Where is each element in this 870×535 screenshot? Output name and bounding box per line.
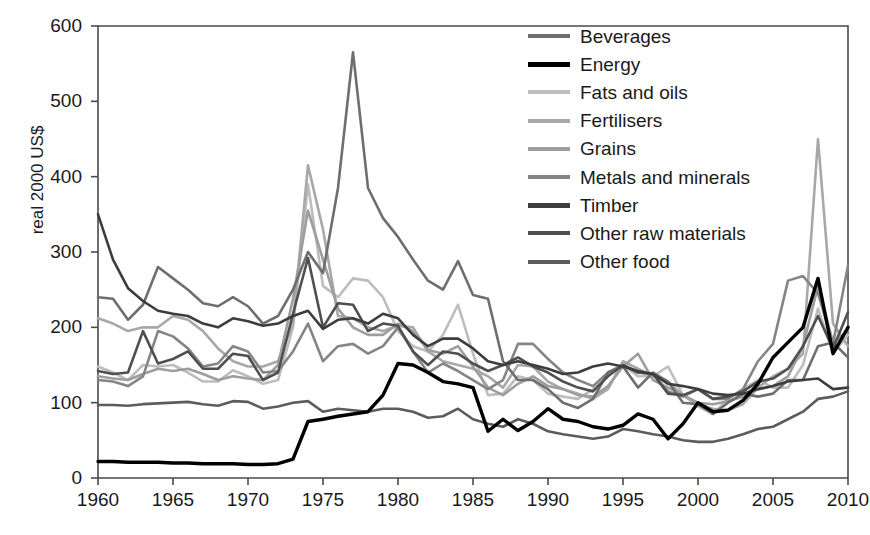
legend-swatch-icon xyxy=(528,90,570,94)
legend-label: Metals and minerals xyxy=(580,168,750,187)
legend-label: Energy xyxy=(580,55,640,74)
x-tick-label: 1960 xyxy=(68,489,128,511)
chart-legend: BeveragesEnergyFats and oilsFertilisersG… xyxy=(528,22,750,276)
legend-swatch-icon xyxy=(528,203,570,208)
legend-swatch-icon xyxy=(528,231,570,235)
y-tick-label: 400 xyxy=(18,166,82,188)
y-tick-label: 500 xyxy=(18,90,82,112)
legend-swatch-icon xyxy=(528,62,570,67)
legend-item[interactable]: Other food xyxy=(528,248,750,276)
y-tick-label: 200 xyxy=(18,316,82,338)
x-tick-label: 1970 xyxy=(218,489,278,511)
x-tick-label: 2000 xyxy=(668,489,728,511)
legend-label: Fats and oils xyxy=(580,83,688,102)
x-tick-label: 2010 xyxy=(818,489,870,511)
y-tick-label: 300 xyxy=(18,241,82,263)
y-tick-label: 600 xyxy=(18,15,82,37)
legend-swatch-icon xyxy=(528,260,570,264)
y-tick-label: 0 xyxy=(18,467,82,489)
series-line-metals-and-minerals xyxy=(98,266,848,399)
legend-swatch-icon xyxy=(528,34,570,38)
x-tick-label: 1995 xyxy=(593,489,653,511)
legend-label: Beverages xyxy=(580,27,671,46)
legend-swatch-icon xyxy=(528,119,570,123)
legend-label: Grains xyxy=(580,139,636,158)
legend-label: Timber xyxy=(580,196,638,215)
legend-item[interactable]: Fertilisers xyxy=(528,107,750,135)
legend-label: Other food xyxy=(580,252,670,271)
legend-label: Other raw materials xyxy=(580,224,746,243)
x-tick-label: 2005 xyxy=(743,489,803,511)
legend-label: Fertilisers xyxy=(580,111,662,130)
legend-item[interactable]: Metals and minerals xyxy=(528,163,750,191)
y-tick-label: 100 xyxy=(18,392,82,414)
legend-item[interactable]: Fats and oils xyxy=(528,78,750,106)
price-index-line-chart: real 2000 US$ 19601965197019751980198519… xyxy=(0,0,870,535)
x-tick-label: 1980 xyxy=(368,489,428,511)
x-tick-label: 1990 xyxy=(518,489,578,511)
legend-item[interactable]: Grains xyxy=(528,135,750,163)
x-tick-label: 1985 xyxy=(443,489,503,511)
legend-swatch-icon xyxy=(528,175,570,179)
x-tick-label: 1965 xyxy=(143,489,203,511)
x-tick-label: 1975 xyxy=(293,489,353,511)
legend-item[interactable]: Timber xyxy=(528,191,750,219)
legend-item[interactable]: Other raw materials xyxy=(528,219,750,247)
legend-swatch-icon xyxy=(528,147,570,151)
legend-item[interactable]: Beverages xyxy=(528,22,750,50)
legend-item[interactable]: Energy xyxy=(528,50,750,78)
